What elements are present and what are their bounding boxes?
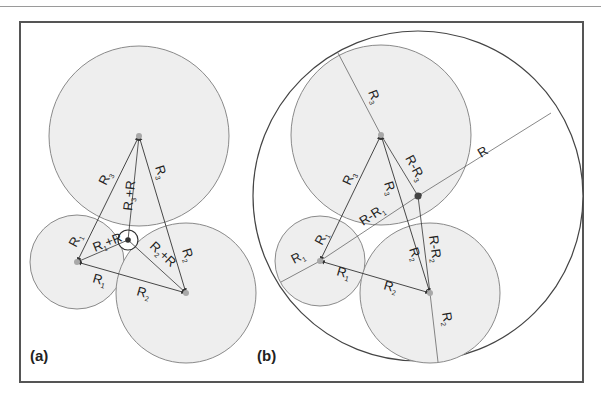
center-dot-1-a (74, 259, 80, 265)
figure-canvas: R3 R3 R3+R R1 R1+R R2+R R2 R1 R2 (a) (0, 0, 601, 402)
center-dot-1-b (317, 258, 323, 264)
center-dot-3-b (378, 132, 384, 138)
panel-a: R3 R3 R3+R R1 R1+R R2+R R2 R1 R2 (a) (30, 46, 256, 364)
panel-label-a: (a) (30, 347, 48, 364)
center-dot-2-b (427, 290, 433, 296)
panel-label-b: (b) (257, 347, 276, 364)
panel-b: R3 R3 R3 R-R3 R R-R1 R1 R1 R1 R2 R-R2 R2… (253, 31, 583, 364)
center-dot-2-a (183, 290, 189, 296)
outer-center-dot-b (415, 193, 422, 200)
inner-center-dot-a (125, 237, 131, 243)
center-dot-3-a (136, 133, 142, 139)
